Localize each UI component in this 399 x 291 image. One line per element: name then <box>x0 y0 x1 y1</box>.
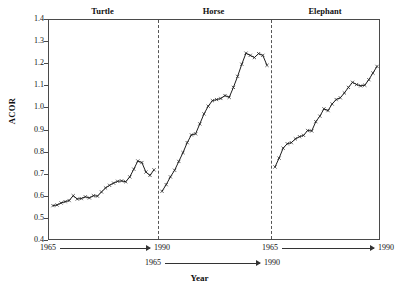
x-ruler-horse-arrow <box>165 263 260 264</box>
data-point-marker <box>72 194 75 197</box>
data-point-marker <box>148 174 151 177</box>
x-axis-label: Year <box>0 273 399 283</box>
x-ruler-elephant: 1965 1990 <box>262 242 394 254</box>
series-line-elephant <box>275 66 377 167</box>
x-ruler-horse-end: 1990 <box>264 259 280 267</box>
data-point-marker <box>318 115 321 118</box>
data-point-marker <box>108 184 111 187</box>
x-ruler-turtle-start: 1965 <box>40 244 56 252</box>
data-point-marker <box>375 65 378 68</box>
panel-title-elephant: Elephant <box>270 6 380 16</box>
data-point-marker <box>152 168 155 171</box>
x-ruler-turtle-end: 1990 <box>154 244 170 252</box>
data-point-marker <box>371 71 374 74</box>
data-point-marker <box>169 175 172 178</box>
data-point-marker <box>100 190 103 193</box>
x-ruler-horse: 1965 1990 <box>145 257 280 269</box>
x-ruler-horse-start: 1965 <box>145 259 161 267</box>
data-point-marker <box>160 190 163 193</box>
data-point-marker <box>104 186 107 189</box>
panel-title-turtle: Turtle <box>48 6 157 16</box>
panel-divider-2 <box>271 20 272 239</box>
x-ruler-turtle-arrow <box>60 248 150 249</box>
data-point-marker <box>249 54 252 57</box>
series-line-horse <box>162 53 267 191</box>
data-point-marker <box>128 175 131 178</box>
data-point-marker <box>165 183 168 186</box>
panel-divider-1 <box>158 20 159 239</box>
x-ruler-elephant-arrow <box>282 248 374 249</box>
series-line-turtle <box>53 161 154 206</box>
x-ruler-elephant-start: 1965 <box>262 244 278 252</box>
data-point-marker <box>343 91 346 94</box>
panel-title-horse: Horse <box>157 6 270 16</box>
data-point-marker <box>207 105 210 108</box>
series-lines <box>49 20 381 241</box>
data-point-marker <box>331 102 334 105</box>
data-point-marker <box>367 78 370 81</box>
plot-area <box>48 19 380 240</box>
data-point-marker <box>253 56 256 59</box>
x-ruler-turtle: 1965 1990 <box>40 242 170 254</box>
data-point-marker <box>351 81 354 84</box>
data-point-marker <box>347 86 350 89</box>
chart-figure: ACOR 1.41.31.21.11.00.90.80.70.60.50.4 T… <box>0 0 399 291</box>
data-point-marker <box>294 137 297 140</box>
x-ruler-elephant-end: 1990 <box>378 244 394 252</box>
y-tick-mark <box>44 240 48 241</box>
